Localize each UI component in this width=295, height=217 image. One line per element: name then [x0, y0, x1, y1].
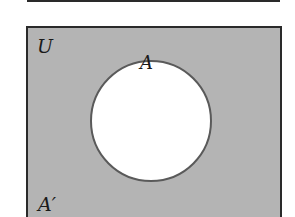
complement-label: A′ — [36, 193, 57, 215]
universal-label: U — [37, 35, 54, 57]
set-a-circle — [91, 61, 211, 181]
venn-diagram: U A A′ — [0, 0, 295, 217]
set-a-label: A — [138, 52, 153, 73]
